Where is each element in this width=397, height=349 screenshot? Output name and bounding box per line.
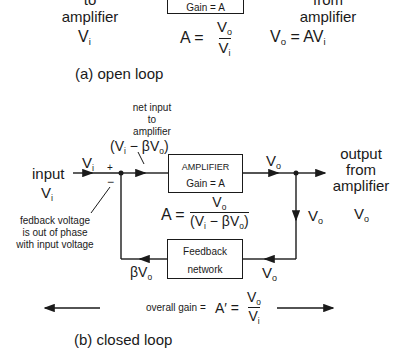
caption-open-loop: (a) open loop <box>75 66 163 81</box>
overall-gain-label: overall gain = <box>146 303 206 313</box>
feedback-network-box: Feedback network <box>167 239 243 279</box>
open-gain-fraction: Vo Vi <box>217 19 232 58</box>
wire-vo-top-label: Vo <box>266 153 281 171</box>
open-input-var: Vi <box>78 29 91 47</box>
overall-gain-fraction: Vo Vi <box>247 290 261 326</box>
open-output-label: from amplifier <box>278 0 378 24</box>
summing-junction <box>119 171 124 176</box>
minus-sign: − <box>107 176 114 188</box>
net-input-label: net input to amplifier <box>112 102 192 138</box>
wire-beta-vo-label: βVo <box>130 265 152 281</box>
caption-closed-loop: (b) closed loop <box>74 332 172 347</box>
closed-gain-lhs: A = <box>161 207 185 223</box>
input-label: input <box>32 166 65 181</box>
overall-gain-lhs: A′ = <box>215 301 239 315</box>
open-input-label: to amplifier <box>50 0 130 24</box>
plus-sign: + <box>107 163 113 173</box>
feedback-phase-note: fedback voltage is out of phase with inp… <box>10 215 100 251</box>
net-input-expression: (Vi − βVo) <box>110 139 169 155</box>
open-gain-lhs: A = <box>180 30 204 46</box>
output-label: output from amplifier <box>325 146 397 194</box>
output-junction <box>294 171 299 176</box>
amplifier-box: AMPLIFIER Gain = A <box>168 154 243 193</box>
open-output-equation: Vo = AVi <box>270 29 326 47</box>
closed-gain-fraction: Vo (Vi − βVo) <box>190 195 249 231</box>
wire-vi-label: Vi <box>82 155 94 173</box>
wire-vo-bottom-label: Vo <box>262 265 277 283</box>
open-amplifier-box: Gain = A <box>167 0 244 14</box>
wire-vo-right-label: Vo <box>308 208 323 226</box>
input-var: Vi <box>41 185 53 203</box>
output-var: Vo <box>354 206 369 224</box>
